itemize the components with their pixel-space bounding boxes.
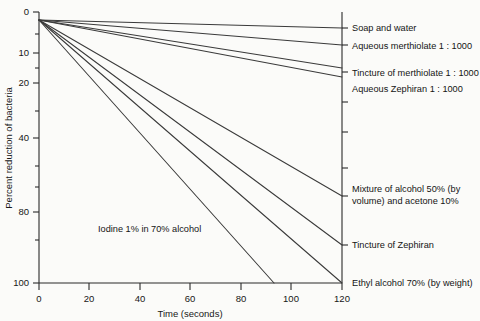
series-label-aqueous-merthiolate: Aqueous merthiolate 1 : 1000 — [352, 41, 472, 51]
antiseptic-bacteria-reduction-chart: 0 10 20 40 80 100 Percent reduction of b… — [0, 0, 480, 321]
series-label-tincture-merthiolate: Tincture of merthiolate 1 : 1000 — [352, 68, 479, 78]
y-axis-title: Percent reduction of bacteria — [3, 87, 14, 209]
series-label-mixture-alcohol-acetone-line2: volume) and acetone 10% — [352, 196, 459, 206]
series-endpoint-ticks — [342, 28, 348, 245]
series-labels: Soap and water Aqueous merthiolate 1 : 1… — [352, 23, 479, 288]
x-tick-label-0: 0 — [36, 293, 41, 304]
x-tick-label-120: 120 — [334, 293, 350, 304]
y-tick-label-40: 40 — [18, 132, 29, 143]
series-label-tincture-zephiran: Tincture of Zephiran — [352, 240, 434, 250]
x-tick-label-40: 40 — [135, 293, 146, 304]
x-axis-ticks — [39, 283, 342, 290]
y-tick-labels: 0 10 20 40 80 100 — [13, 6, 29, 288]
y-tick-label-10: 10 — [18, 47, 29, 58]
x-tick-label-80: 80 — [236, 293, 247, 304]
series-label-ethyl-alcohol: Ethyl alcohol 70% (by weight) — [352, 278, 473, 288]
annotation-iodine: Iodine 1% in 70% alcohol — [98, 224, 201, 234]
x-tick-labels: 0 20 40 60 80 100 120 — [36, 293, 350, 304]
series-line-aqueous-zephiran — [39, 20, 342, 77]
y-axis-major-ticks — [33, 12, 39, 283]
series-label-mixture-alcohol-acetone-line1: Mixture of alcohol 50% (by — [352, 184, 461, 194]
x-tick-label-20: 20 — [84, 293, 95, 304]
y-tick-label-100: 100 — [13, 277, 29, 288]
series-lines — [39, 20, 342, 283]
x-tick-label-100: 100 — [283, 293, 299, 304]
x-tick-label-60: 60 — [185, 293, 196, 304]
series-line-tincture-zephiran — [39, 20, 342, 245]
y-tick-label-20: 20 — [18, 77, 29, 88]
y-axis-minor-ticks — [35, 34, 39, 240]
series-line-iodine — [39, 20, 274, 283]
series-line-mixture-alcohol-acetone — [39, 20, 342, 196]
series-label-aqueous-zephiran: Aqueous Zephiran 1 : 1000 — [352, 84, 463, 94]
x-axis-title: Time (seconds) — [157, 308, 222, 319]
series-line-ethyl-alcohol — [39, 20, 342, 283]
series-label-soap-and-water: Soap and water — [352, 23, 416, 33]
chart-svg: 0 10 20 40 80 100 Percent reduction of b… — [0, 0, 480, 321]
y-tick-label-80: 80 — [18, 206, 29, 217]
y-tick-label-0: 0 — [24, 6, 29, 17]
